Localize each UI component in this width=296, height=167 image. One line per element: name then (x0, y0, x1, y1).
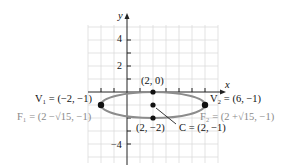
bottom-covertex-point (150, 115, 155, 120)
y-tick-2: 2 (117, 61, 122, 71)
vertex-v2-label: V₂ = (6, −1) (210, 94, 261, 105)
vertex-v1-point (98, 102, 104, 108)
y-tick-neg4: −4 (111, 140, 122, 150)
focus-f2-label: F₂ = (2 +√15, −1) (200, 112, 274, 123)
y-axis-label: y (118, 11, 123, 22)
focus-f1-label: F₁ = (2 −√15, −1) (17, 112, 91, 123)
y-axis-arrow-icon (125, 13, 130, 19)
vertex-v2-point (202, 102, 208, 108)
center-point (150, 102, 155, 107)
center-label: C = (2, −1) (179, 123, 226, 134)
x-axis-label: x (225, 80, 230, 91)
top-covertex-point (150, 89, 155, 94)
vertex-v1-label: V₁ = (−2, −1) (35, 94, 92, 105)
top-point-label: (2, 0) (141, 76, 164, 87)
bottom-point-label: (2, −2) (136, 123, 165, 134)
y-tick-4: 4 (117, 34, 122, 44)
